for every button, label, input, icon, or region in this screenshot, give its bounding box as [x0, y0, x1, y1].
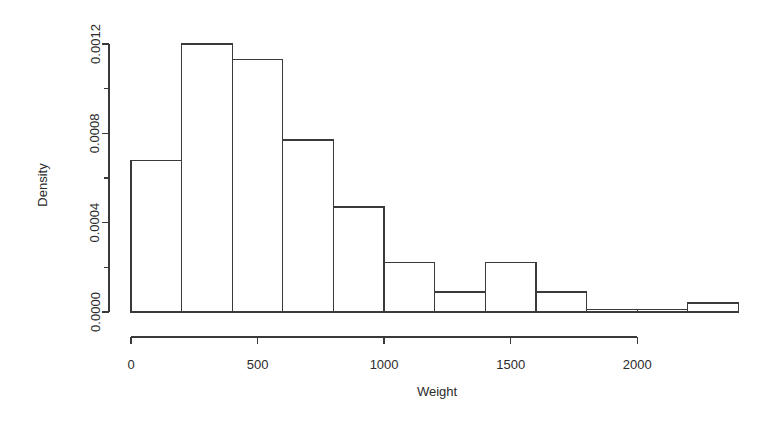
- plot-canvas: 0.00000.00040.00080.0012Density050010001…: [0, 0, 780, 421]
- histogram-bar: [688, 303, 739, 312]
- histogram-bar: [536, 292, 587, 312]
- histogram-bar: [435, 292, 486, 312]
- histogram-bar: [131, 160, 182, 312]
- y-axis: 0.00000.00040.00080.0012Density: [35, 24, 110, 332]
- x-tick-label: 1000: [370, 357, 399, 372]
- x-axis: 0500100015002000Weight: [127, 337, 651, 399]
- histogram-bar: [182, 44, 233, 312]
- x-axis-title: Weight: [417, 384, 458, 399]
- histogram-bar: [232, 60, 283, 312]
- y-tick-label: 0.0012: [88, 24, 103, 64]
- histogram-bar: [283, 140, 334, 312]
- x-tick-label: 1500: [496, 357, 525, 372]
- histogram-bar: [587, 310, 638, 312]
- y-tick-label: 0.0000: [88, 292, 103, 332]
- histogram-bar: [333, 207, 384, 312]
- x-tick-label: 0: [127, 357, 134, 372]
- histogram-bar: [485, 263, 536, 312]
- x-tick-label: 500: [247, 357, 269, 372]
- y-tick-label: 0.0004: [88, 203, 103, 243]
- x-tick-label: 2000: [623, 357, 652, 372]
- histogram-bar: [384, 263, 435, 312]
- histogram-bars: [131, 44, 738, 312]
- histogram-figure: 0.00000.00040.00080.0012Density050010001…: [0, 0, 780, 421]
- y-axis-title: Density: [35, 163, 50, 207]
- y-tick-label: 0.0008: [88, 113, 103, 153]
- histogram-bar: [637, 310, 688, 312]
